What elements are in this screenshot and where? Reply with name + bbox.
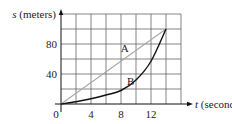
labels: 048124080s (meters)t (seconds)AB [12,8,232,120]
x-tick-label: 8 [118,108,124,120]
position-time-chart: 048124080s (meters)t (seconds)AB [0,0,232,124]
x-tick-label: 12 [146,108,157,120]
y-tick-label: 80 [46,38,58,50]
x-tick-label: 0 [53,108,59,120]
series-label-b: B [127,75,134,87]
series-label-a: A [121,42,129,54]
y-axis-arrow-icon [59,9,63,15]
x-axis-arrow-icon [187,102,193,106]
data-series [61,29,166,104]
y-axis-label: s (meters) [12,8,56,21]
y-tick-label: 40 [46,68,58,80]
x-axis-label: t (seconds) [195,98,232,111]
x-tick-label: 4 [88,108,94,120]
